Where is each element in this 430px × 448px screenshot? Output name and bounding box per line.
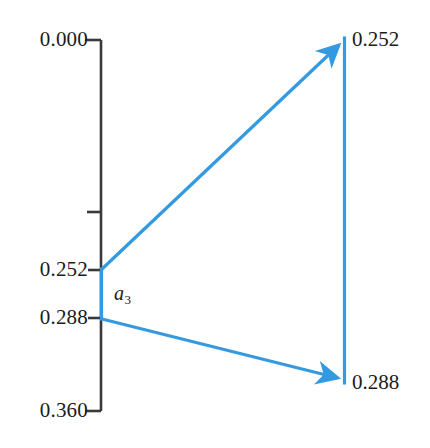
vector-label-a3: a3: [114, 282, 131, 305]
axis-label-0.252: 0.252: [8, 257, 88, 282]
vector-label-subscript: 3: [125, 292, 132, 307]
axis-label-0.360: 0.360: [8, 398, 88, 423]
endpoint-label-top-0.252: 0.252: [352, 27, 399, 52]
vector-label-base: a: [114, 282, 124, 304]
axis-label-0.000: 0.000: [8, 27, 88, 52]
axis-label-0.288: 0.288: [8, 305, 88, 330]
upper-arrow: [102, 45, 339, 269]
figure-canvas: 0.000 0.252 0.288 0.360 a3 0.252 0.288: [0, 0, 430, 448]
endpoint-label-bottom-0.288: 0.288: [352, 370, 399, 395]
lower-arrow: [102, 319, 338, 378]
